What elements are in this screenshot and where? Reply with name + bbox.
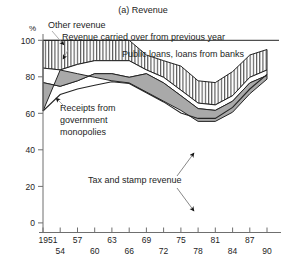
annotation-receipts-line3: monopolies (60, 127, 107, 137)
annotation-receipts-line2: government (60, 115, 108, 125)
x-tick-label-72: 72 (159, 246, 169, 256)
annotation-receipts-line1: Receipts from (60, 103, 116, 113)
chart-svg: (a) Revenue % 100 80 60 40 (0, 0, 287, 270)
annotation-other-revenue: Other revenue (48, 20, 106, 30)
x-tick-label-63: 63 (107, 235, 117, 245)
y-tick-label-20: 20 (26, 182, 36, 192)
x-tick-label-69: 69 (142, 235, 152, 245)
x-tick-label-60: 60 (90, 246, 100, 256)
revenue-chart: (a) Revenue % 100 80 60 40 (0, 0, 287, 270)
annotation-revenue-carried-over: Revenue carried over from previous year (62, 32, 225, 42)
x-tick-label-66: 66 (124, 246, 134, 256)
y-tick-label-60: 60 (26, 109, 36, 119)
y-axis-unit-label: % (29, 24, 36, 33)
y-tick-label-80: 80 (26, 72, 36, 82)
annotation-public-loans: Public loans, loans from banks (122, 49, 245, 59)
x-tick-label-1951: 1951 (39, 235, 58, 245)
x-tick-label-81: 81 (211, 235, 221, 245)
x-tick-label-75: 75 (176, 235, 186, 245)
x-tick-label-78: 78 (193, 246, 203, 256)
chart-title: (a) Revenue (118, 5, 168, 15)
x-tick-label-87: 87 (245, 235, 255, 245)
y-tick-label-100: 100 (21, 36, 35, 46)
x-tick-label-57: 57 (73, 235, 83, 245)
x-tick-label-90: 90 (262, 246, 272, 256)
y-tick-label-40: 40 (26, 145, 36, 155)
y-tick-label-0: 0 (30, 218, 35, 228)
x-tick-label-84: 84 (228, 246, 238, 256)
annotation-tax-and-stamp-revenue: Tax and stamp revenue (88, 175, 182, 185)
x-tick-label-54: 54 (55, 246, 65, 256)
